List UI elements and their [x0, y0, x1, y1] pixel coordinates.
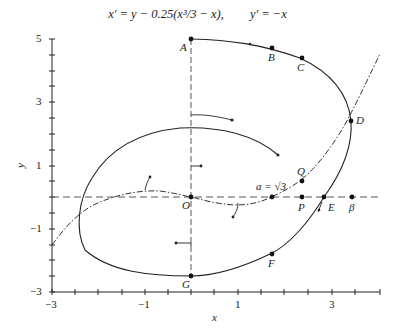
x-tick-1: 1	[235, 299, 241, 310]
arrow-right-upper	[191, 115, 232, 120]
label-P: P	[298, 202, 305, 213]
label-D: D	[356, 115, 364, 126]
label-Q: Q	[297, 166, 305, 177]
phase-plane-plot	[0, 0, 395, 335]
direction-arrows	[145, 115, 322, 246]
y-tick-1: 1	[36, 160, 42, 171]
point-C	[300, 56, 305, 61]
y-axis-label: y	[15, 163, 26, 168]
label-beta: β	[349, 202, 354, 213]
x-tick-neg3: −3	[45, 299, 57, 310]
point-beta	[350, 195, 355, 200]
point-E	[322, 195, 327, 200]
point-a	[270, 195, 275, 200]
point-F	[270, 252, 275, 257]
label-O: O	[182, 200, 190, 211]
point-P	[300, 195, 305, 200]
arrow-left-lower	[176, 243, 191, 246]
point-B	[270, 46, 275, 51]
marked-points	[189, 37, 355, 279]
point-D	[349, 119, 354, 124]
y-tick-5: 5	[36, 33, 42, 44]
cubic-nullcline-dashdot	[52, 54, 380, 245]
y-tick-3: 3	[36, 96, 42, 107]
label-E: E	[328, 202, 335, 213]
point-A	[189, 37, 194, 42]
label-B: B	[268, 52, 275, 63]
label-a: a = √3	[256, 181, 286, 192]
x-axis-label: x	[212, 312, 217, 323]
label-G: G	[182, 279, 190, 290]
y-tick-neg3: −3	[30, 286, 42, 297]
x-tick-neg1: −1	[138, 299, 150, 310]
arrow-up-left	[145, 177, 150, 190]
x-tick-3: 3	[329, 299, 335, 310]
label-F: F	[268, 258, 275, 269]
y-tick-neg1: −1	[30, 223, 42, 234]
point-Q	[300, 179, 305, 184]
label-A: A	[180, 42, 187, 53]
label-C: C	[297, 62, 304, 73]
trajectory-curve	[79, 39, 351, 276]
